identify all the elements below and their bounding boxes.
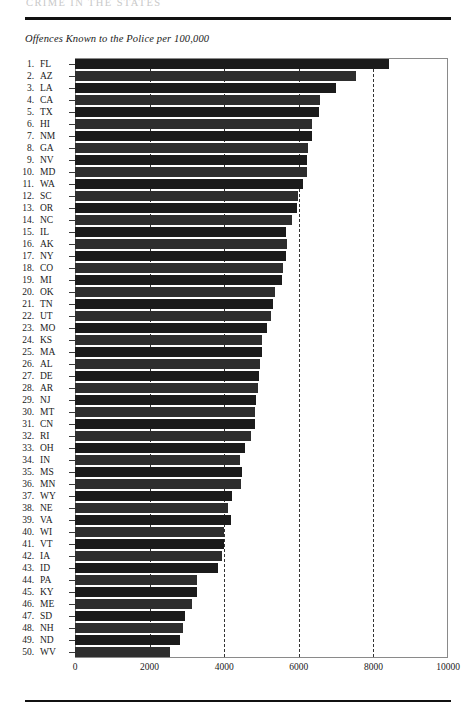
row-rank-label: 47.: [10, 610, 34, 622]
bar-row: 49.ND: [0, 634, 476, 646]
row-state-label: AR: [40, 382, 66, 394]
row-rank-label: 5.: [10, 106, 34, 118]
row-state-label: MS: [40, 466, 66, 478]
row-state-label: AK: [40, 238, 66, 250]
x-tick-label: 2000: [140, 662, 159, 672]
bar-row: 10.MD: [0, 166, 476, 178]
bar: [75, 299, 273, 309]
row-rank-label: 45.: [10, 586, 34, 598]
row-state-label: OR: [40, 202, 66, 214]
bar: [75, 83, 336, 93]
row-state-label: WA: [40, 178, 66, 190]
row-state-label: MT: [40, 406, 66, 418]
row-rank-label: 14.: [10, 214, 34, 226]
row-state-label: DE: [40, 370, 66, 382]
bar: [75, 263, 283, 273]
bar: [75, 251, 286, 261]
row-state-label: OK: [40, 286, 66, 298]
row-state-label: CN: [40, 418, 66, 430]
row-state-label: MI: [40, 274, 66, 286]
bar-row: 8.GA: [0, 142, 476, 154]
bar: [75, 275, 282, 285]
bar-row: 33.OH: [0, 442, 476, 454]
bar-row: 50.WV: [0, 646, 476, 658]
bar-row: 42.IA: [0, 550, 476, 562]
bar-row: 43.ID: [0, 562, 476, 574]
bar-rows: 1.FL2.AZ3.LA4.CA5.TX6.HI7.NM8.GA9.NV10.M…: [0, 58, 476, 658]
row-state-label: SC: [40, 190, 66, 202]
row-state-label: NE: [40, 502, 66, 514]
row-state-label: UT: [40, 310, 66, 322]
x-axis-tick-labels: 0200040006000800010000: [0, 662, 476, 676]
row-rank-label: 36.: [10, 478, 34, 490]
bar-row: 11.WA: [0, 178, 476, 190]
bar: [75, 347, 262, 357]
row-state-label: WV: [40, 646, 66, 658]
bar-row: 4.CA: [0, 94, 476, 106]
row-rank-label: 26.: [10, 358, 34, 370]
bar-row: 25.MA: [0, 346, 476, 358]
bar: [75, 551, 222, 561]
bar-row: 45.KY: [0, 586, 476, 598]
bar-row: 38.NE: [0, 502, 476, 514]
row-rank-label: 46.: [10, 598, 34, 610]
row-state-label: MN: [40, 478, 66, 490]
bar-row: 5.TX: [0, 106, 476, 118]
row-rank-label: 16.: [10, 238, 34, 250]
row-state-label: KY: [40, 586, 66, 598]
x-tick-label: 4000: [215, 662, 234, 672]
bar: [75, 383, 258, 393]
bar-row: 2.AZ: [0, 70, 476, 82]
bar: [75, 635, 180, 645]
row-rank-label: 29.: [10, 394, 34, 406]
bar-row: 40.WI: [0, 526, 476, 538]
row-state-label: NM: [40, 130, 66, 142]
bar: [75, 95, 320, 105]
bar: [75, 167, 307, 177]
row-rank-label: 9.: [10, 154, 34, 166]
row-rank-label: 39.: [10, 514, 34, 526]
row-state-label: VT: [40, 538, 66, 550]
row-rank-label: 4.: [10, 94, 34, 106]
row-rank-label: 1.: [10, 58, 34, 70]
row-state-label: NH: [40, 622, 66, 634]
header-rule: [25, 17, 451, 20]
row-rank-label: 18.: [10, 262, 34, 274]
bar-row: 26.AL: [0, 358, 476, 370]
row-state-label: NY: [40, 250, 66, 262]
bar: [75, 227, 286, 237]
bar: [75, 467, 242, 477]
row-rank-label: 49.: [10, 634, 34, 646]
row-rank-label: 8.: [10, 142, 34, 154]
bar: [75, 71, 356, 81]
bar-row: 3.LA: [0, 82, 476, 94]
bar-row: 20.OK: [0, 286, 476, 298]
row-rank-label: 19.: [10, 274, 34, 286]
x-tick-label: 0: [73, 662, 78, 672]
footer-rule: [25, 700, 451, 702]
bar: [75, 335, 262, 345]
row-rank-label: 41.: [10, 538, 34, 550]
bar-row: 12.SC: [0, 190, 476, 202]
row-state-label: RI: [40, 430, 66, 442]
bar-row: 1.FL: [0, 58, 476, 70]
bar-row: 29.NJ: [0, 394, 476, 406]
bar: [75, 419, 255, 429]
row-state-label: MA: [40, 346, 66, 358]
bar: [75, 323, 267, 333]
row-rank-label: 2.: [10, 70, 34, 82]
bar: [75, 203, 297, 213]
row-rank-label: 3.: [10, 82, 34, 94]
bar-row: 22.UT: [0, 310, 476, 322]
row-state-label: CO: [40, 262, 66, 274]
row-state-label: CA: [40, 94, 66, 106]
bar: [75, 407, 255, 417]
row-state-label: NV: [40, 154, 66, 166]
row-rank-label: 22.: [10, 310, 34, 322]
bar-row: 18.CO: [0, 262, 476, 274]
bar-row: 36.MN: [0, 478, 476, 490]
bar-row: 27.DE: [0, 370, 476, 382]
row-state-label: WY: [40, 490, 66, 502]
bar: [75, 371, 259, 381]
row-rank-label: 30.: [10, 406, 34, 418]
